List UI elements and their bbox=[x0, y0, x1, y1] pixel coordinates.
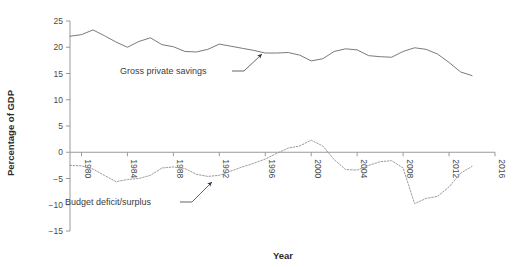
annotation-budget-deficit-surplus-leader-line bbox=[180, 182, 212, 202]
y-axis-title: Percentage of GDP bbox=[5, 89, 16, 176]
x-tick-label: 1984 bbox=[129, 159, 139, 178]
annotation-gross-private-savings-leader-line bbox=[232, 54, 262, 71]
x-tick-label: 2000 bbox=[313, 159, 323, 178]
x-tick-label: 1980 bbox=[83, 159, 93, 178]
annotation-budget-deficit-surplus-label: Budget deficit/surplus bbox=[65, 197, 152, 207]
x-axis-title: Year bbox=[273, 250, 293, 261]
x-axis: 1980198419881992199620002004200820122016 bbox=[70, 152, 507, 178]
annotations-group: Gross private savingsBudget deficit/surp… bbox=[65, 52, 263, 207]
y-tick-label: 20 bbox=[54, 42, 64, 52]
y-tick-label: 25 bbox=[54, 16, 64, 26]
y-tick-label: 0 bbox=[58, 147, 63, 157]
x-tick-label: 2016 bbox=[497, 159, 507, 178]
x-tick-label: 1996 bbox=[267, 159, 277, 178]
x-tick-label: 2008 bbox=[405, 159, 415, 178]
y-tick-label: 15 bbox=[54, 69, 64, 79]
y-tick-label: −10 bbox=[49, 200, 64, 210]
chart-canvas: 2520151050−5−10−15 198019841988199219962… bbox=[0, 0, 518, 267]
annotation-gross-private-savings-label: Gross private savings bbox=[120, 66, 207, 76]
x-tick-label: 1988 bbox=[175, 159, 185, 178]
y-tick-label: −5 bbox=[53, 174, 63, 184]
x-tick-label: 1992 bbox=[221, 159, 231, 178]
chart-figure: 2520151050−5−10−15 198019841988199219962… bbox=[0, 0, 518, 267]
y-tick-label: 5 bbox=[58, 121, 63, 131]
y-tick-label: −15 bbox=[49, 226, 64, 236]
y-tick-label: 10 bbox=[54, 95, 64, 105]
